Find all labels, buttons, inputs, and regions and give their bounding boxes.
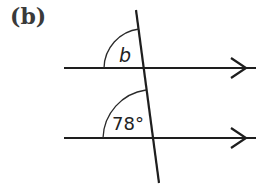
parallel-lines-diagram: b 78° [0, 0, 273, 189]
angle-label-b: b [119, 44, 131, 66]
angle-label-78: 78° [112, 113, 144, 134]
transversal-line [136, 10, 159, 183]
